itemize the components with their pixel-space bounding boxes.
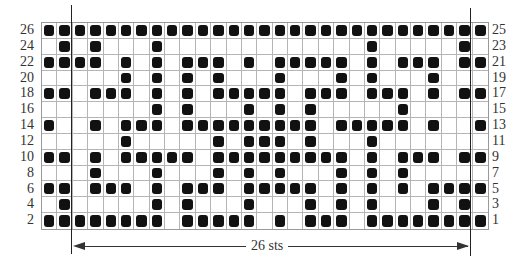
stitch-cell-empty — [257, 39, 272, 55]
stitch-cell-empty — [319, 181, 334, 197]
stitch-cell-empty — [196, 134, 211, 150]
stitch-cell-empty — [288, 71, 303, 87]
stitch-cell-empty — [288, 213, 303, 229]
stitch-cell-filled — [150, 213, 165, 229]
stitch-cell-filled — [73, 23, 88, 39]
stitch-cell-filled — [273, 213, 288, 229]
stitch-cell-filled — [134, 150, 149, 166]
stitch-cell-filled — [119, 55, 134, 71]
stitch-cell-empty — [88, 71, 103, 87]
row-label: 5 — [492, 181, 499, 197]
stitch-cell-filled — [288, 181, 303, 197]
stitch-cell-empty — [319, 102, 334, 118]
stitch-cell-empty — [119, 197, 134, 213]
stitch-cell-empty — [288, 86, 303, 102]
row-label: 4 — [27, 196, 34, 212]
stitch-cell-filled — [242, 118, 257, 134]
stitch-cell-filled — [150, 55, 165, 71]
stitch-cell-empty — [104, 134, 119, 150]
stitch-cell-empty — [288, 197, 303, 213]
stitch-cell-filled — [288, 118, 303, 134]
stitch-cell-filled — [134, 23, 149, 39]
stitch-cell-filled — [88, 213, 103, 229]
stitch-cell-empty — [442, 166, 457, 182]
stitch-cell-empty — [196, 39, 211, 55]
stitch-cell-empty — [104, 102, 119, 118]
stitch-cell-filled — [426, 150, 441, 166]
stitch-cell-empty — [73, 181, 88, 197]
stitch-cell-filled — [211, 134, 226, 150]
stitch-cell-filled — [380, 213, 395, 229]
stitch-cell-filled — [473, 23, 488, 39]
stitch-cell-filled — [334, 197, 349, 213]
stitch-cell-empty — [165, 86, 180, 102]
stitch-cell-filled — [319, 55, 334, 71]
repeat-label: 26 sts — [246, 238, 288, 254]
stitch-cell-filled — [227, 118, 242, 134]
stitch-cell-filled — [365, 166, 380, 182]
stitch-cell-empty — [411, 71, 426, 87]
stitch-cell-empty — [273, 197, 288, 213]
stitch-cell-filled — [42, 23, 57, 39]
stitch-cell-empty — [257, 71, 272, 87]
stitch-cell-filled — [211, 86, 226, 102]
stitch-cell-filled — [273, 102, 288, 118]
row-label: 14 — [20, 117, 34, 133]
stitch-cell-empty — [134, 166, 149, 182]
stitch-cell-filled — [242, 86, 257, 102]
stitch-cell-filled — [211, 181, 226, 197]
stitch-cell-filled — [411, 23, 426, 39]
row-label: 22 — [20, 54, 34, 70]
stitch-cell-empty — [411, 102, 426, 118]
stitch-cell-filled — [365, 134, 380, 150]
stitch-cell-filled — [350, 118, 365, 134]
stitch-cell-empty — [227, 102, 242, 118]
stitch-cell-filled — [242, 134, 257, 150]
stitch-cell-empty — [442, 102, 457, 118]
stitch-cell-empty — [380, 197, 395, 213]
stitch-cell-empty — [442, 134, 457, 150]
stitch-cell-empty — [380, 55, 395, 71]
stitch-cell-filled — [396, 23, 411, 39]
stitch-cell-empty — [380, 71, 395, 87]
stitch-cell-filled — [473, 181, 488, 197]
row-label: 11 — [492, 133, 505, 149]
stitch-cell-filled — [42, 86, 57, 102]
stitch-cell-empty — [350, 213, 365, 229]
stitch-cell-empty — [73, 166, 88, 182]
stitch-cell-filled — [257, 150, 272, 166]
stitch-cell-filled — [334, 118, 349, 134]
stitch-cell-empty — [134, 71, 149, 87]
stitch-cell-filled — [334, 71, 349, 87]
stitch-cell-filled — [334, 150, 349, 166]
stitch-cell-filled — [426, 197, 441, 213]
repeat-right-boundary-line — [470, 8, 471, 256]
stitch-cell-filled — [365, 39, 380, 55]
stitch-cell-filled — [42, 118, 57, 134]
stitch-cell-empty — [134, 102, 149, 118]
stitch-cell-empty — [288, 102, 303, 118]
row-label: 21 — [492, 54, 506, 70]
stitch-cell-filled — [426, 181, 441, 197]
stitch-cell-filled — [119, 118, 134, 134]
stitch-cell-filled — [380, 23, 395, 39]
stitch-cell-empty — [396, 71, 411, 87]
stitch-cell-filled — [396, 166, 411, 182]
stitch-cell-filled — [88, 118, 103, 134]
stitch-cell-filled — [88, 166, 103, 182]
stitch-cell-filled — [426, 71, 441, 87]
stitch-cell-empty — [303, 166, 318, 182]
stitch-cell-empty — [165, 181, 180, 197]
stitch-cell-empty — [134, 55, 149, 71]
stitch-cell-empty — [196, 102, 211, 118]
stitch-cell-filled — [426, 118, 441, 134]
stitch-cell-empty — [227, 134, 242, 150]
stitch-cell-filled — [42, 55, 57, 71]
stitch-cell-filled — [196, 213, 211, 229]
stitch-cell-empty — [42, 197, 57, 213]
stitch-cell-filled — [227, 86, 242, 102]
stitch-cell-empty — [380, 102, 395, 118]
stitch-cell-filled — [334, 23, 349, 39]
stitch-cell-empty — [104, 197, 119, 213]
stitch-cell-filled — [134, 118, 149, 134]
